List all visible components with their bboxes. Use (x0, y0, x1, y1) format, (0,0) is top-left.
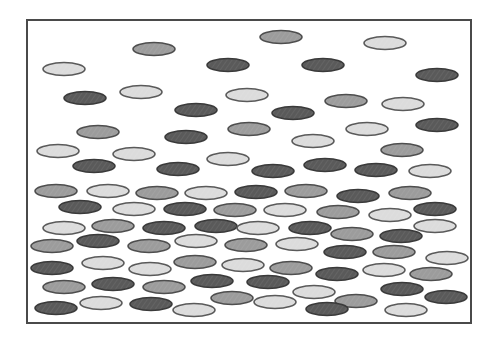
particle-texture (417, 120, 457, 131)
particle-texture (32, 241, 72, 252)
particle-texture (144, 282, 184, 293)
particle-texture (44, 64, 84, 75)
particle-texture (78, 127, 118, 138)
particle-texture (294, 287, 334, 298)
particle-texture (166, 132, 206, 143)
particle-texture (129, 241, 169, 252)
particle-texture (364, 265, 404, 276)
particle-texture (137, 188, 177, 199)
particle-texture (386, 305, 426, 316)
particle-texture (326, 96, 366, 107)
particle-texture (81, 298, 121, 309)
particle-texture (374, 247, 414, 258)
particle-texture (305, 160, 345, 171)
particle-texture (114, 149, 154, 160)
particle-texture (44, 223, 84, 234)
particle-texture (317, 269, 357, 280)
particle-texture (88, 186, 128, 197)
particle-texture (238, 223, 278, 234)
particle-texture (347, 124, 387, 135)
particle-texture (196, 221, 236, 232)
particle-texture (208, 60, 248, 71)
particle-texture (411, 269, 451, 280)
particle-texture (176, 236, 216, 247)
particle-texture (144, 223, 184, 234)
particle-texture (208, 154, 248, 165)
particle-texture (175, 257, 215, 268)
particle-texture (253, 166, 293, 177)
particle-texture (38, 146, 78, 157)
particle-texture (255, 297, 295, 308)
particle-texture (426, 292, 466, 303)
particle-texture (134, 44, 174, 55)
particle-texture (227, 90, 267, 101)
particle-texture (307, 304, 347, 315)
particle-texture (158, 164, 198, 175)
particle-texture (74, 161, 114, 172)
particle-texture (65, 93, 105, 104)
particle-texture (318, 207, 358, 218)
particle-texture (417, 70, 457, 81)
particle-texture (427, 253, 467, 264)
particle-diagram-canvas (0, 0, 497, 347)
particle-texture (248, 277, 288, 288)
particle-texture (130, 264, 170, 275)
particle-texture (415, 204, 455, 215)
particle-texture (415, 221, 455, 232)
particle-texture (365, 38, 405, 49)
particle-texture (382, 284, 422, 295)
particle-texture (273, 108, 313, 119)
particle-texture (32, 263, 72, 274)
particle-texture (383, 99, 423, 110)
particle-texture (60, 202, 100, 213)
particle-texture (277, 239, 317, 250)
particle-texture (78, 236, 118, 247)
particle-texture (236, 187, 276, 198)
particle-texture (114, 204, 154, 215)
particle-texture (290, 223, 330, 234)
particle-texture (325, 247, 365, 258)
particle-texture (332, 229, 372, 240)
particle-texture (215, 205, 255, 216)
particle-texture (286, 186, 326, 197)
particle-texture (36, 186, 76, 197)
particle-texture (381, 231, 421, 242)
particle-texture (410, 166, 450, 177)
particle-texture (44, 282, 84, 293)
particle-texture (382, 145, 422, 156)
particle-texture (261, 32, 301, 43)
particle-texture (176, 105, 216, 116)
particle-texture (192, 276, 232, 287)
particle-texture (36, 303, 76, 314)
particle-texture (165, 204, 205, 215)
particle-texture (174, 305, 214, 316)
particle-texture (303, 60, 343, 71)
particle-texture (93, 221, 133, 232)
particle-texture (131, 299, 171, 310)
particle-texture (212, 293, 252, 304)
particle-texture (370, 210, 410, 221)
particle-texture (83, 258, 123, 269)
particle-texture (293, 136, 333, 147)
particle-texture (223, 260, 263, 271)
particle-texture (186, 188, 226, 199)
particle-texture (93, 279, 133, 290)
particle-texture (338, 191, 378, 202)
particle-texture (229, 124, 269, 135)
particle-texture (390, 188, 430, 199)
particle-texture (121, 87, 161, 98)
particle-texture (356, 165, 396, 176)
particle-texture (226, 240, 266, 251)
particle-texture (265, 205, 305, 216)
particle-texture (271, 263, 311, 274)
particle-diagram (0, 0, 497, 347)
